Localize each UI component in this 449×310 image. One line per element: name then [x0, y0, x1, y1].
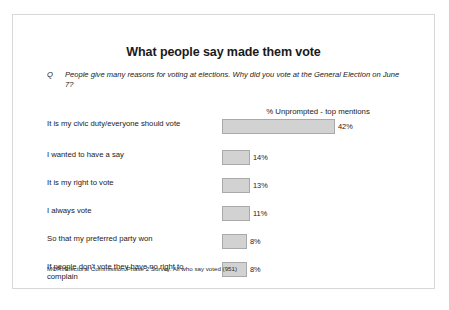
source-footnote: MORI/Electoral Commission Phase 2 Survey… [47, 265, 237, 272]
chart-bar-value: 8% [250, 234, 261, 249]
chart-bar-value: 13% [253, 178, 268, 193]
chart-row: I wanted to have a say 14% [13, 150, 434, 178]
chart-bar-value: 11% [253, 206, 267, 221]
chart-bar [222, 119, 335, 134]
chart-bar-value: 8% [250, 262, 261, 277]
chart-bar-area: 13% [222, 178, 428, 206]
chart-row: So that my preferred party won 8% [13, 234, 434, 262]
chart-header-label: % Unprompted - top mentions [223, 107, 413, 116]
chart-bar-area: 11% [222, 206, 428, 234]
chart-row-label: It is my civic duty/everyone should vote [47, 119, 215, 129]
chart-bar-value: 42% [338, 119, 353, 134]
question-block: Q People give many reasons for voting at… [47, 70, 407, 90]
chart-bar-area: 8% [222, 262, 428, 293]
chart-row: I always vote 11% [13, 206, 434, 234]
slide-frame: What people say made them vote Q People … [12, 14, 435, 289]
chart-bar [222, 206, 250, 221]
question-marker: Q [47, 70, 53, 90]
chart-bar-area: 8% [222, 234, 428, 262]
chart-bar [222, 150, 250, 165]
chart-row: It is my civic duty/everyone should vote… [13, 119, 434, 150]
chart-row-label: So that my preferred party won [47, 234, 215, 244]
page-title: What people say made them vote [13, 45, 434, 59]
chart-bar-area: 42% [222, 119, 428, 150]
chart-row-label: It is my right to vote [47, 178, 215, 188]
chart-row-label: I always vote [47, 206, 215, 216]
chart-bar [222, 234, 247, 249]
chart-bar [222, 178, 250, 193]
chart-row: It is my right to vote 13% [13, 178, 434, 206]
chart-bar-value: 14% [253, 150, 268, 165]
question-text: People give many reasons for voting at e… [65, 70, 407, 90]
chart-bar-area: 14% [222, 150, 428, 178]
chart-row-label: I wanted to have a say [47, 150, 215, 160]
